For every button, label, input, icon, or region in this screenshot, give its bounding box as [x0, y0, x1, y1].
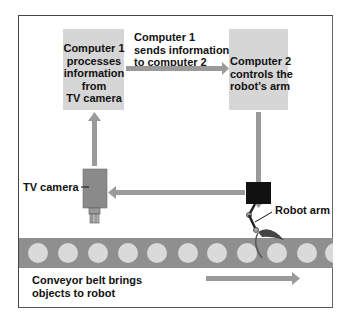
conveyor-line-1: Conveyor belt brings	[32, 274, 142, 287]
robot-arm-icon	[246, 182, 284, 258]
arrow-up-icon	[88, 112, 101, 166]
arrow-right-icon	[126, 62, 229, 75]
arrow-left-icon	[108, 186, 245, 199]
conveyor-label: Conveyor belt brings objects to robot	[32, 274, 142, 299]
robot-arm-label: Robot arm	[275, 204, 330, 217]
tv-camera-icon	[83, 169, 107, 223]
conveyor-line-2: objects to robot	[32, 287, 142, 300]
tv-camera-label: TV camera	[23, 181, 79, 194]
robot-arm-leader-line	[255, 212, 272, 222]
conveyor-direction-arrow-icon	[206, 272, 300, 285]
